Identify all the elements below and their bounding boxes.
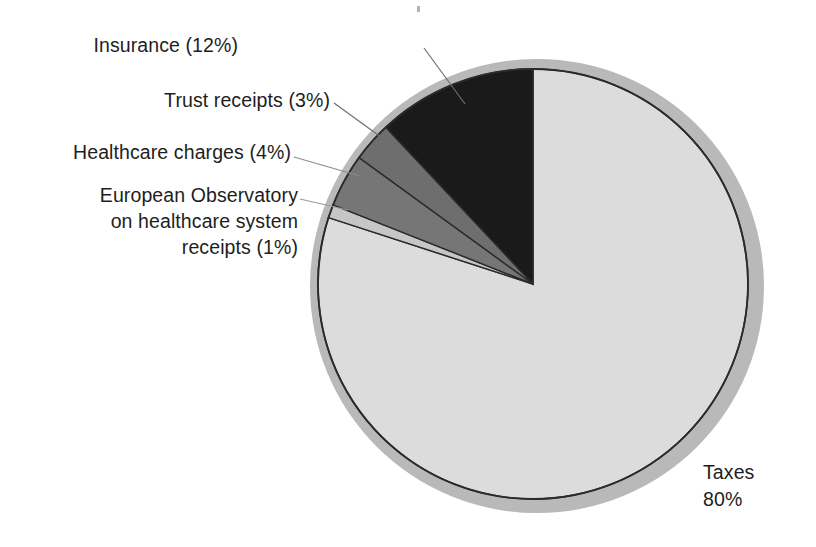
pie-chart-svg (0, 0, 816, 547)
pie-label-healthcare-charges: Healthcare charges (4%) (0, 140, 291, 165)
leader-line-trust (334, 103, 385, 140)
pie-label-taxes: Taxes 80% (703, 459, 803, 513)
pie-label-trust-receipts: Trust receipts (3%) (0, 88, 330, 113)
scan-artifact-speck (417, 6, 420, 12)
pie-label-european-observatory: European Observatory on healthcare syste… (0, 182, 298, 260)
chart-canvas: Insurance (12%) Trust receipts (3%) Heal… (0, 0, 816, 547)
pie-label-insurance: Insurance (12%) (0, 33, 238, 58)
